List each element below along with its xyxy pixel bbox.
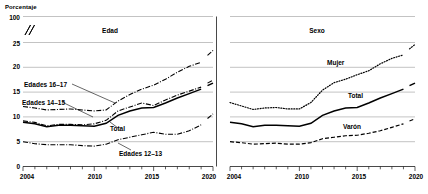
series-mujer <box>230 44 415 109</box>
series-edades-16-17 <box>23 50 213 111</box>
series-total <box>23 83 213 127</box>
series-edades-12-13 <box>23 114 213 146</box>
leader-line-2 <box>110 122 118 128</box>
leader-line-0 <box>72 84 115 103</box>
leader-line-3 <box>118 143 131 150</box>
series-varon <box>230 119 415 144</box>
series-edades-14-15 <box>23 80 213 126</box>
